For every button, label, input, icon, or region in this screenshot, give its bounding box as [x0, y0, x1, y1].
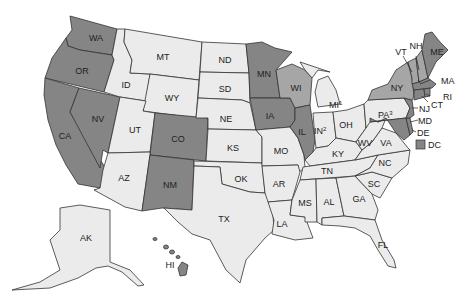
label-UT: UT — [129, 125, 141, 135]
label-NH: NH — [410, 41, 423, 51]
label-ME: ME — [430, 47, 444, 57]
label-MI: MI1 — [329, 100, 343, 110]
dc-legend-swatch — [416, 140, 425, 149]
label-VT: VT — [395, 47, 407, 57]
label-OH: OH — [339, 120, 353, 130]
label-HI: HI — [166, 260, 175, 270]
label-NC: NC — [379, 158, 392, 168]
label-NE: NE — [220, 114, 233, 124]
label-AR: AR — [273, 179, 286, 189]
label-SD: SD — [219, 84, 232, 94]
label-NM: NM — [163, 180, 177, 190]
label-TN: TN — [321, 166, 333, 176]
label-ID: ID — [122, 80, 132, 90]
label-NV: NV — [92, 114, 105, 124]
label-MO: MO — [274, 146, 289, 156]
label-TX: TX — [218, 214, 230, 224]
label-WY: WY — [165, 93, 180, 103]
label-OK: OK — [234, 174, 247, 184]
label-RI: RI — [443, 92, 452, 102]
label-KY: KY — [332, 149, 344, 159]
label-SC: SC — [368, 179, 381, 189]
label-WA: WA — [89, 33, 103, 43]
state-AK[interactable] — [12, 205, 144, 290]
label-WI: WI — [291, 83, 302, 93]
us-map: WA OR CA NV ID MT WY UT CO AZ NM ND SD N… — [0, 0, 462, 295]
label-FL: FL — [378, 240, 389, 250]
label-LA: LA — [276, 219, 287, 229]
state-NY[interactable] — [368, 62, 414, 100]
label-MS: MS — [298, 198, 312, 208]
label-GA: GA — [352, 194, 365, 204]
label-AL: AL — [323, 197, 334, 207]
label-MT: MT — [157, 52, 170, 62]
label-OR: OR — [75, 66, 89, 76]
label-AZ: AZ — [118, 173, 130, 183]
label-DC: DC — [428, 140, 441, 150]
label-DE: DE — [417, 128, 430, 138]
label-ND: ND — [219, 55, 232, 65]
label-MA: MA — [441, 76, 455, 86]
label-IL: IL — [298, 127, 306, 137]
label-CT: CT — [431, 100, 443, 110]
label-WV: WV — [358, 138, 373, 148]
label-AK: AK — [80, 233, 92, 243]
label-KS: KS — [227, 143, 239, 153]
label-MN: MN — [257, 69, 271, 79]
state-HI[interactable] — [153, 238, 188, 277]
label-NJ: NJ — [419, 104, 430, 114]
label-IA: IA — [266, 111, 275, 121]
label-VA: VA — [380, 138, 391, 148]
label-MD: MD — [418, 116, 432, 126]
state-CT[interactable] — [414, 89, 425, 100]
label-NY: NY — [391, 83, 404, 93]
label-CO: CO — [171, 134, 185, 144]
label-CA: CA — [59, 131, 72, 141]
